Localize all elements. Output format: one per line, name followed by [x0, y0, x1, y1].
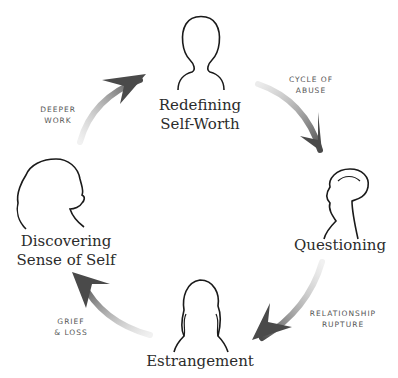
node-estrangement: Estrangement [144, 352, 256, 371]
edge-label-line1: CYCLE OF [276, 74, 346, 85]
edge-label-line1: DEEPER [30, 104, 86, 115]
edge-label-relationship-rupture: RELATIONSHIP RUPTURE [298, 308, 388, 330]
edge-label-deeper-work: DEEPER WORK [30, 104, 86, 126]
node-questioning: Questioning [285, 236, 395, 255]
edge-label-line2: WORK [30, 115, 86, 126]
node-label-line2: Self-Worth [150, 115, 250, 134]
edge-label-line1: GRIEF [46, 316, 96, 327]
node-label-line1: Redefining [150, 96, 250, 115]
edge-label-cycle-of-abuse: CYCLE OF ABUSE [276, 74, 346, 96]
edge-label-line1: RELATIONSHIP [298, 308, 388, 319]
woman-curly-hair-profile-silhouette-icon [12, 155, 87, 230]
cycle-diagram: Redefining Self-Worth Questioning Estran… [0, 0, 398, 378]
node-label-line1: Discovering [6, 232, 126, 251]
woman-hair-bun-silhouette-icon [310, 165, 380, 240]
edge-label-line2: ABUSE [276, 85, 346, 96]
woman-short-hair-silhouette-icon [170, 12, 230, 92]
node-discovering-sense-of-self: Discovering Sense of Self [6, 232, 126, 270]
woman-long-wavy-hair-silhouette-icon [168, 274, 234, 354]
node-redefining-self-worth: Redefining Self-Worth [150, 96, 250, 134]
edge-label-grief-and-loss: GRIEF & LOSS [46, 316, 96, 338]
node-label-line1: Estrangement [144, 352, 256, 371]
node-label-line2: Sense of Self [6, 251, 126, 270]
arrow-deeper-work [80, 74, 146, 142]
edge-label-line2: & LOSS [46, 327, 96, 338]
edge-label-line2: RUPTURE [298, 319, 388, 330]
node-label-line1: Questioning [285, 236, 395, 255]
